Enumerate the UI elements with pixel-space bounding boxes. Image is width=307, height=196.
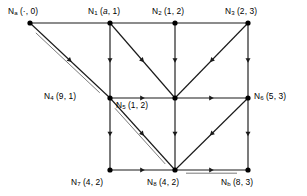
arrowhead-e-n8-nb bbox=[209, 168, 214, 173]
node-label-N5: N5 (1, 2) bbox=[116, 101, 148, 110]
node-dot-N3[interactable] bbox=[245, 20, 250, 25]
node-dot-N1[interactable] bbox=[107, 20, 112, 25]
graph-figure: Na (·, 0) N1 (a, 1) N2 (1, 2) N3 (2, 3) … bbox=[0, 0, 307, 196]
node-label-N3: N3 (2, 3) bbox=[225, 7, 257, 16]
node-label-N7: N7 (4, 2) bbox=[71, 178, 103, 187]
arrowhead-e-n4-n7 bbox=[108, 132, 113, 137]
arrowhead-e-n6-nb bbox=[246, 132, 251, 137]
node-label-N4: N4 (9, 1) bbox=[44, 92, 76, 101]
arrowhead-e-n3-n6 bbox=[246, 58, 251, 63]
arrowhead-e-n7-n8 bbox=[140, 168, 145, 173]
node-label-N2: N2 (1, 2) bbox=[152, 7, 184, 16]
node-dot-N6[interactable] bbox=[245, 95, 250, 100]
node-dot-N8[interactable] bbox=[172, 167, 177, 172]
node-label-N6: N6 (5, 3) bbox=[254, 92, 286, 101]
node-dot-N4[interactable] bbox=[107, 95, 112, 100]
node-label-Na: Na (·, 0) bbox=[8, 7, 38, 16]
arrowhead-e-n1-n4 bbox=[108, 58, 113, 63]
node-label-N1: N1 (a, 1) bbox=[88, 7, 120, 16]
node-dot-N7[interactable] bbox=[107, 167, 112, 172]
edge-line-parallel bbox=[115, 108, 165, 164]
arrowhead-e-n2-n5 bbox=[173, 58, 178, 63]
arrowhead-e-n5-n6 bbox=[209, 96, 214, 101]
arrowheads-layer bbox=[67, 57, 251, 172]
node-label-Nb: Nb (8, 3) bbox=[221, 178, 253, 187]
node-label-N8: N8 (4, 2) bbox=[147, 178, 179, 187]
node-dot-N2[interactable] bbox=[172, 20, 177, 25]
arrowhead-e-n5-n8 bbox=[173, 132, 178, 137]
node-dot-Na[interactable] bbox=[27, 20, 32, 25]
edge-line-parallel bbox=[36, 33, 100, 93]
node-dot-N5[interactable] bbox=[172, 95, 177, 100]
node-dot-Nb[interactable] bbox=[245, 167, 250, 172]
